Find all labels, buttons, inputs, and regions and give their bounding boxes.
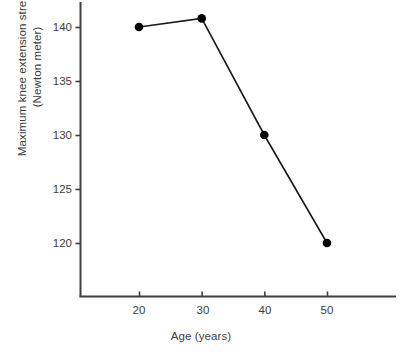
data-point-40 bbox=[260, 131, 269, 140]
data-point-20 bbox=[135, 23, 144, 32]
y-tick-label-140: 140 bbox=[38, 21, 72, 33]
y-tick-label-120: 120 bbox=[38, 237, 72, 249]
data-point-markers bbox=[135, 14, 332, 247]
data-point-30 bbox=[197, 14, 206, 23]
data-point-50 bbox=[323, 239, 332, 248]
x-tick-label-50: 50 bbox=[310, 304, 344, 316]
chart-figure: Maximum knee extension strength (Newton … bbox=[0, 0, 402, 356]
y-tick-label-130: 130 bbox=[38, 129, 72, 141]
y-tick-label-135: 135 bbox=[38, 75, 72, 87]
plot-area bbox=[0, 0, 402, 356]
x-tick-label-20: 20 bbox=[122, 304, 156, 316]
figure-caption-partial bbox=[0, 345, 402, 356]
x-tick-label-40: 40 bbox=[248, 304, 282, 316]
x-tick-label-30: 30 bbox=[186, 304, 220, 316]
x-axis-label: Age (years) bbox=[0, 330, 402, 342]
y-tick-label-125: 125 bbox=[38, 183, 72, 195]
y-axis-label-line1: Maximum knee extension strength bbox=[16, 0, 28, 156]
data-line-series bbox=[139, 18, 327, 243]
